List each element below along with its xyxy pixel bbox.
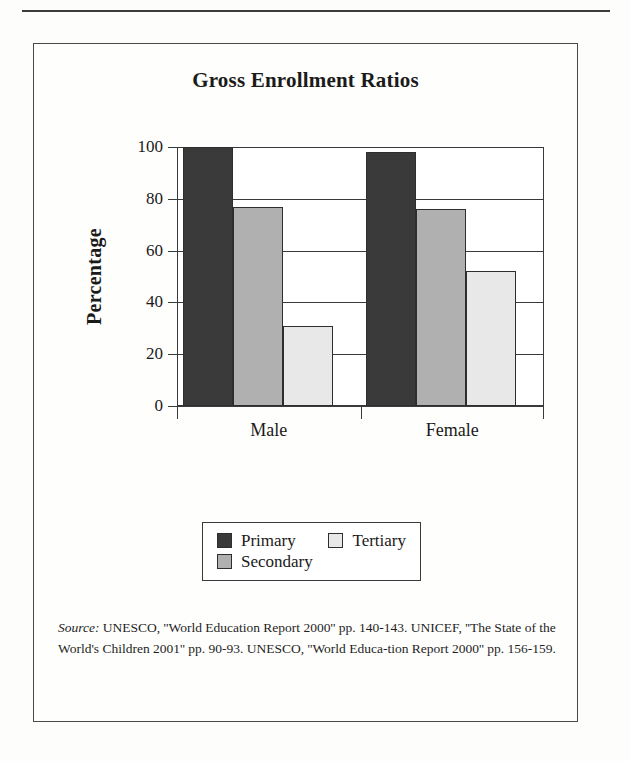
y-tick-mark-40 xyxy=(168,302,177,303)
y-tick-label-100: 100 xyxy=(103,137,163,157)
legend-row-1: Secondary xyxy=(217,553,406,570)
chart-title: Gross Enrollment Ratios xyxy=(34,68,577,93)
y-tick-label-40: 40 xyxy=(103,292,163,312)
y-tick-mark-20 xyxy=(168,354,177,355)
x-label-female: Female xyxy=(361,420,545,441)
figure-frame: Gross Enrollment Ratios Percentage 02040… xyxy=(33,43,578,722)
x-tick-0 xyxy=(177,406,178,419)
y-tick-label-80: 80 xyxy=(103,189,163,209)
legend-item-primary: Primary xyxy=(217,532,328,549)
bar-female-primary xyxy=(366,152,416,406)
y-tick-mark-60 xyxy=(168,251,177,252)
bar-female-tertiary xyxy=(466,271,516,406)
chart-legend: PrimaryTertiarySecondary xyxy=(202,522,421,581)
source-body: UNESCO, ''World Education Report 2000'' … xyxy=(58,620,556,656)
legend-swatch-tertiary xyxy=(328,533,343,548)
source-keyword: Source: xyxy=(58,620,99,635)
x-axis-ticks xyxy=(177,406,544,419)
legend-item-secondary: Secondary xyxy=(217,553,335,570)
plot-area-wrapper: 020406080100 xyxy=(177,147,544,406)
bar-male-primary xyxy=(183,147,233,406)
legend-label-secondary: Secondary xyxy=(241,553,313,570)
source-note: Source: UNESCO, ''World Education Report… xyxy=(58,618,558,659)
y-tick-mark-0 xyxy=(168,406,177,407)
x-label-male: Male xyxy=(177,420,361,441)
page-top-rule xyxy=(22,10,610,12)
x-axis-labels: MaleFemale xyxy=(177,420,544,441)
y-tick-label-0: 0 xyxy=(103,396,163,416)
bar-group-female xyxy=(362,147,545,406)
legend-label-primary: Primary xyxy=(241,532,296,549)
y-tick-mark-80 xyxy=(168,199,177,200)
legend-swatch-secondary xyxy=(217,554,232,569)
legend-label-tertiary: Tertiary xyxy=(352,532,406,549)
x-tick-2 xyxy=(543,406,544,419)
y-tick-mark-100 xyxy=(168,147,177,148)
legend-item-tertiary: Tertiary xyxy=(328,532,406,549)
bar-group-male xyxy=(177,147,362,406)
bar-male-tertiary xyxy=(283,326,333,406)
x-tick-1 xyxy=(361,406,362,419)
legend-swatch-primary xyxy=(217,533,232,548)
bars-layer xyxy=(177,147,544,406)
y-axis-title: Percentage xyxy=(82,147,108,406)
bar-female-secondary xyxy=(416,209,466,406)
bar-male-secondary xyxy=(233,207,283,406)
legend-row-0: PrimaryTertiary xyxy=(217,532,406,549)
y-tick-label-20: 20 xyxy=(103,344,163,364)
y-tick-label-60: 60 xyxy=(103,241,163,261)
